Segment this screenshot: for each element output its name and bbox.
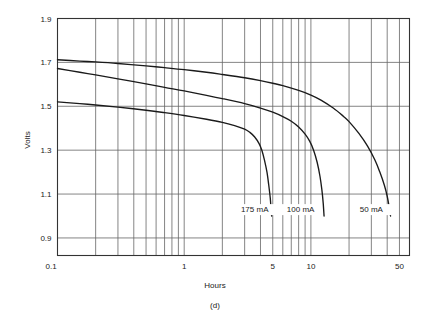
series-inline-labels: 50 mA100 mA175 mA: [234, 204, 393, 215]
figure-container: 0.1151050 1.91.71.51.31.10.9 50 mA100 mA…: [0, 0, 430, 318]
series-label-50-ma: 50 mA: [360, 205, 384, 214]
chart-background: [0, 0, 430, 318]
series-label-100-ma: 100 mA: [287, 205, 315, 214]
x-tick-label: 5: [271, 262, 276, 271]
y-axis-title: Volts: [23, 131, 32, 148]
y-tick-label: 1.5: [40, 102, 52, 111]
figure-caption: (d): [210, 301, 220, 310]
x-tick-label: 1: [182, 262, 187, 271]
y-tick-label: 1.7: [40, 58, 52, 67]
battery-discharge-chart: 0.1151050 1.91.71.51.31.10.9 50 mA100 mA…: [0, 0, 430, 318]
x-tick-label: 10: [306, 262, 315, 271]
x-tick-label: 50: [395, 262, 404, 271]
y-tick-label: 1.9: [40, 15, 52, 24]
series-label-175-ma: 175 mA: [241, 205, 269, 214]
x-tick-label: 0.1: [46, 262, 58, 271]
x-axis-title: Hours: [204, 281, 225, 290]
y-tick-label: 1.3: [40, 146, 52, 155]
y-tick-label: 1.1: [40, 190, 52, 199]
y-tick-label: 0.9: [40, 234, 52, 243]
